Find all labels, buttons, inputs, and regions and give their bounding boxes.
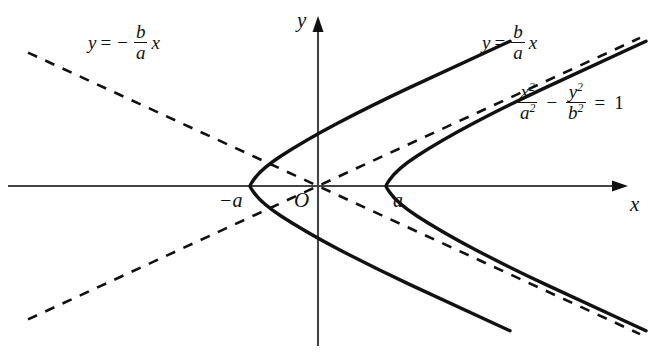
conic-term-1-denominator: a2	[518, 102, 537, 123]
conic-equation: x2 a2 − y2 b2 = 1	[516, 82, 624, 122]
left-asymptote-denominator: a	[134, 42, 148, 63]
left-asymptote-sign: −	[117, 33, 128, 52]
left-asymptote-variable: x	[151, 33, 159, 52]
conic-term-2-numerator: y2	[567, 82, 585, 102]
x-axis-label: x	[630, 194, 639, 215]
right-asymptote-equals: =	[494, 33, 505, 52]
origin-label: O	[294, 190, 309, 211]
asymptote-positive-slope	[28, 38, 640, 320]
hyperbola-figure: y x O −a a y = − b a x y = b a x x2 a2 −	[0, 0, 654, 353]
conic-term-1: x2 a2	[518, 82, 537, 122]
right-asymptote-variable: x	[529, 33, 537, 52]
y-axis-arrowhead	[313, 16, 324, 32]
left-asymptote-fraction: b a	[134, 22, 148, 62]
right-asymptote-equation: y = b a x	[482, 22, 537, 62]
left-asymptote-numerator: b	[134, 22, 148, 42]
conic-equals: =	[595, 93, 606, 112]
left-asymptote-lhs: y	[88, 33, 96, 52]
right-asymptote-numerator: b	[511, 22, 525, 42]
conic-term-1-numerator: x2	[519, 82, 537, 102]
y-axis-label: y	[297, 10, 306, 31]
conic-rhs: 1	[614, 93, 624, 112]
x-axis-arrowhead	[612, 181, 628, 192]
left-asymptote-equation: y = − b a x	[88, 22, 160, 62]
conic-operator: −	[546, 93, 557, 112]
left-asymptote-equals: =	[100, 33, 111, 52]
conic-term-2-denominator: b2	[566, 102, 585, 123]
right-asymptote-fraction: b a	[511, 22, 525, 62]
right-vertex-label: a	[393, 190, 403, 210]
left-vertex-label: −a	[219, 190, 243, 210]
right-asymptote-lhs: y	[482, 33, 490, 52]
right-asymptote-denominator: a	[511, 42, 525, 63]
conic-term-2: y2 b2	[566, 82, 585, 122]
axes-group	[8, 16, 628, 346]
